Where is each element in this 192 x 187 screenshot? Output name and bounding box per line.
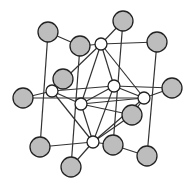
crystal-structure-diagram <box>0 0 192 187</box>
small-atom <box>108 80 120 92</box>
large-atom <box>147 32 167 52</box>
small-atom <box>75 98 87 110</box>
large-atom <box>13 88 33 108</box>
small-atom <box>138 92 150 104</box>
bond-line <box>52 91 93 142</box>
large-atom <box>61 157 81 177</box>
small-atom <box>87 136 99 148</box>
large-atom <box>137 146 157 166</box>
small-atom <box>46 85 58 97</box>
large-atom <box>30 137 50 157</box>
large-atom <box>103 135 123 155</box>
large-atom <box>162 78 182 98</box>
small-atom <box>95 38 107 50</box>
large-atom <box>113 11 133 31</box>
large-atom <box>122 105 142 125</box>
large-atom <box>38 22 58 42</box>
large-atom <box>70 36 90 56</box>
